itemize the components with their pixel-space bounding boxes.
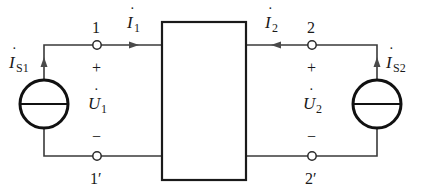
arrow-up-icon [41, 57, 48, 67]
svg-text:S1: S1 [16, 61, 29, 75]
terminal-2 [308, 41, 316, 49]
svg-text:2: 2 [272, 21, 278, 35]
svg-text:·: · [130, 1, 135, 16]
svg-text:2: 2 [316, 102, 322, 116]
svg-text:·: · [389, 41, 394, 56]
terminal-1 [93, 41, 101, 49]
network-box [162, 22, 246, 180]
port1-plus-sign: + [92, 59, 101, 76]
svg-text:·: · [268, 1, 273, 16]
terminal-1-prime [93, 152, 101, 160]
svg-text:·: · [12, 41, 17, 56]
port2-plus-sign: + [307, 59, 316, 76]
source-is2-label: I · S2 [385, 41, 406, 75]
svg-text:·: · [94, 82, 99, 97]
source-is1-label: I · S1 [8, 41, 29, 75]
arrow-up-icon [374, 57, 381, 67]
port1-minus-sign: − [92, 128, 101, 145]
voltage-u1-label: U · 1 [88, 82, 107, 116]
arrow-left-icon [271, 42, 281, 49]
arrow-right-icon [129, 42, 139, 49]
port2-minus-sign: − [307, 128, 316, 145]
terminal-2-prime [308, 152, 316, 160]
current-i1-label: I · 1 [126, 1, 140, 35]
svg-text:1: 1 [134, 21, 140, 35]
terminal-2-prime-label: 2′ [305, 170, 317, 187]
voltage-u2-label: U · 2 [303, 82, 322, 116]
current-i2-label: I · 2 [264, 1, 278, 35]
svg-text:S2: S2 [393, 61, 406, 75]
terminal-1-prime-label: 1′ [90, 170, 102, 187]
current-source-s1 [20, 80, 68, 128]
two-port-circuit-diagram: 1 1′ 2 2′ + − + − U · 1 U · 2 I · 1 I · … [0, 0, 425, 193]
terminal-1-label: 1 [92, 19, 100, 36]
svg-text:1: 1 [101, 102, 107, 116]
terminal-2-label: 2 [307, 19, 315, 36]
current-source-s2 [353, 80, 401, 128]
svg-text:·: · [309, 82, 314, 97]
